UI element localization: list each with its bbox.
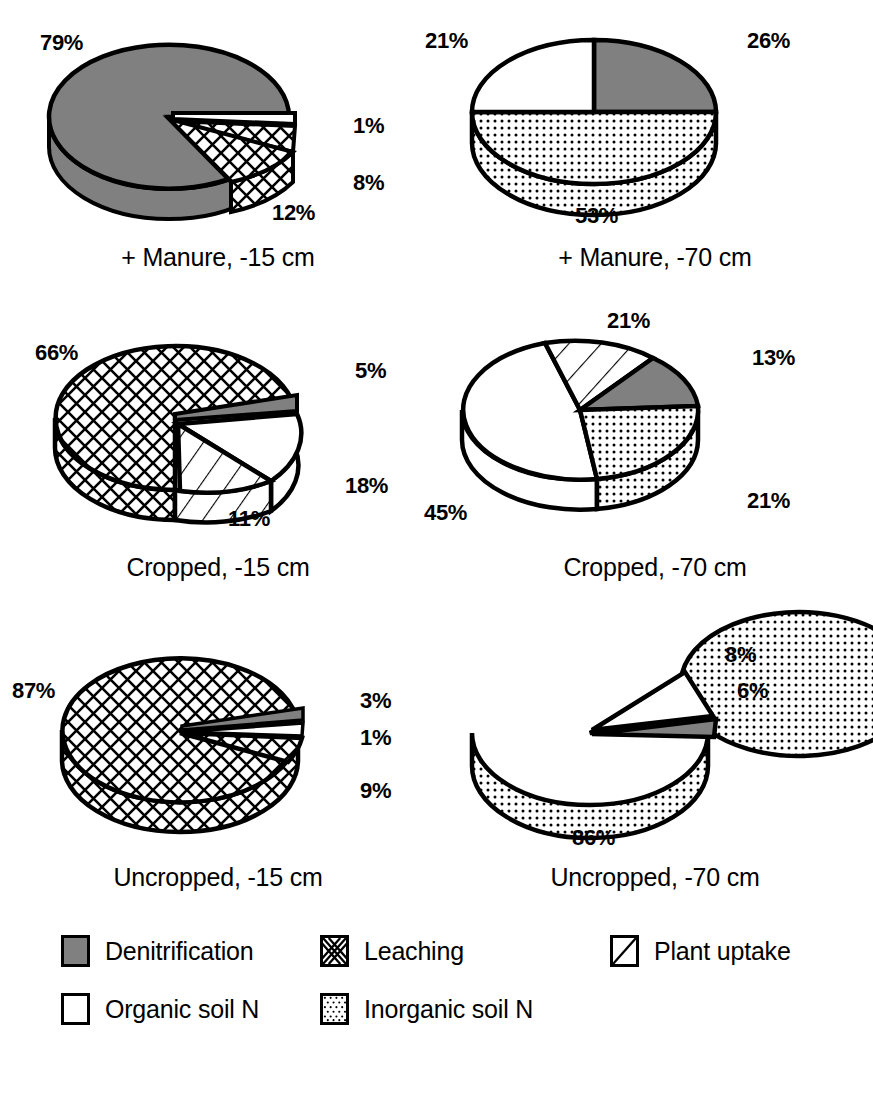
chart-panel-uncropped-70cm: 8% 6% 86% Uncropped, -70 cm xyxy=(437,620,873,920)
nitrogen-fate-pie-figure: 79% 1% 8% 12% + Manure, -15 cm 21% 26% 5… xyxy=(0,0,873,1105)
legend-item-inorganic-soil-n[interactable]: Inorganic soil N xyxy=(320,986,533,1032)
pie-slice-denitrification-26 xyxy=(594,40,716,112)
pie-label-21-plant: 21% xyxy=(607,308,650,334)
swatch-organic-soil-n-icon xyxy=(61,993,90,1025)
legend-label-leaching: Leaching xyxy=(364,939,464,964)
pie-label-3: 3% xyxy=(360,688,391,714)
legend-item-plant-uptake[interactable]: Plant uptake xyxy=(610,928,791,974)
pie-label-26: 26% xyxy=(747,28,790,54)
pie-label-18: 18% xyxy=(345,473,388,499)
swatch-leaching-icon xyxy=(320,935,349,967)
pie-label-53: 53% xyxy=(575,203,618,229)
legend-item-leaching[interactable]: Leaching xyxy=(320,928,464,974)
pie-slice-organic-21 xyxy=(472,40,594,112)
pie-label-1: 1% xyxy=(353,113,384,139)
legend-item-denitrification[interactable]: Denitrification xyxy=(61,928,253,974)
pie-label-21: 21% xyxy=(425,28,468,54)
pie-label-5: 5% xyxy=(355,358,386,384)
chart-caption-manure-70cm: + Manure, -70 cm xyxy=(437,243,873,272)
pie-label-79: 79% xyxy=(40,30,83,56)
pie-label-13: 13% xyxy=(752,345,795,371)
chart-panel-manure-15cm: 79% 1% 8% 12% + Manure, -15 cm xyxy=(0,0,436,300)
legend-item-organic-soil-n[interactable]: Organic soil N xyxy=(61,986,259,1032)
chart-panel-cropped-70cm: 21% 13% 21% 45% Cropped, -70 cm xyxy=(437,310,873,610)
pie-chart-cropped-70cm xyxy=(437,310,873,560)
swatch-inorganic-soil-n-icon xyxy=(320,993,349,1025)
pie-label-21-inorganic: 21% xyxy=(747,488,790,514)
legend-label-plant-uptake: Plant uptake xyxy=(654,939,791,964)
pie-chart-uncropped-70cm xyxy=(437,620,873,870)
chart-panel-cropped-15cm: 66% 5% 18% 11% Cropped, -15 cm xyxy=(0,310,436,610)
chart-caption-uncropped-70cm: Uncropped, -70 cm xyxy=(437,863,873,892)
swatch-denitrification-icon xyxy=(61,935,90,967)
pie-chart-manure-70cm xyxy=(437,0,873,250)
chart-panel-uncropped-15cm: 87% 3% 1% 9% Uncropped, -15 cm xyxy=(0,620,436,920)
chart-caption-cropped-15cm: Cropped, -15 cm xyxy=(0,553,436,582)
legend-label-denitrification: Denitrification xyxy=(105,939,253,964)
pie-label-6: 6% xyxy=(737,678,768,704)
pie-label-8: 8% xyxy=(725,642,756,668)
pie-label-86: 86% xyxy=(572,825,615,851)
legend-label-inorganic-soil-n: Inorganic soil N xyxy=(364,997,533,1022)
legend-label-organic-soil-n: Organic soil N xyxy=(105,997,259,1022)
swatch-plant-uptake-icon xyxy=(610,935,639,967)
pie-label-66: 66% xyxy=(35,340,78,366)
chart-panel-manure-70cm: 21% 26% 53% + Manure, -70 cm xyxy=(437,0,873,300)
chart-caption-manure-15cm: + Manure, -15 cm xyxy=(0,243,436,272)
pie-side-wall xyxy=(472,733,708,838)
pie-label-11: 11% xyxy=(228,506,270,532)
pie-label-9: 9% xyxy=(360,778,391,804)
pie-label-87: 87% xyxy=(12,678,55,704)
legend: Denitrification Leaching xyxy=(0,928,873,1058)
legend-row-top: Denitrification Leaching xyxy=(0,928,873,980)
pie-label-8: 8% xyxy=(353,170,384,196)
pie-label-45: 45% xyxy=(424,500,467,526)
pie-label-1: 1% xyxy=(360,725,391,751)
chart-caption-cropped-70cm: Cropped, -70 cm xyxy=(437,553,873,582)
pie-label-12: 12% xyxy=(272,200,315,226)
legend-row-bottom: Organic soil N xyxy=(0,986,873,1038)
chart-caption-uncropped-15cm: Uncropped, -15 cm xyxy=(0,863,436,892)
